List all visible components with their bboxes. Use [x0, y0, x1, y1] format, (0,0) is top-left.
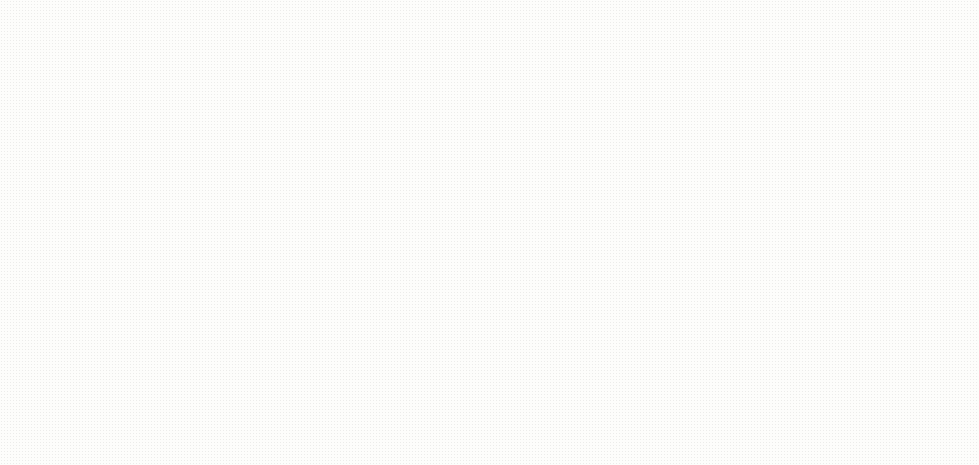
- value-chain-diagram: [0, 0, 979, 465]
- diagram-canvas: [0, 0, 979, 465]
